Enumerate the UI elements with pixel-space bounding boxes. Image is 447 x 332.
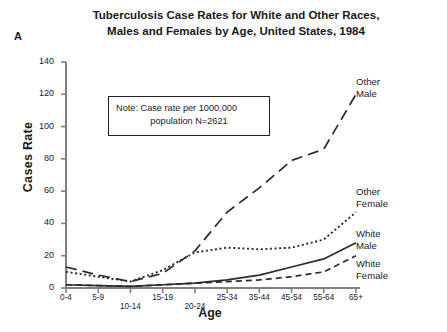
x-tick-label: 15-19 [143, 293, 183, 302]
y-tick-label: 20 [28, 250, 54, 260]
y-tick-label: 0 [28, 282, 54, 292]
x-tick-label: 20-24 [175, 302, 215, 311]
y-tick-label: 60 [28, 185, 54, 195]
y-tick-label: 100 [28, 121, 54, 131]
y-tick-label: 120 [28, 88, 54, 98]
y-tick-label: 80 [28, 153, 54, 163]
series-line-white-female [66, 256, 356, 287]
x-tick-label: 5-9 [78, 293, 118, 302]
series-line-other-female [66, 212, 356, 281]
x-tick-label: 65+ [336, 293, 376, 302]
plot-canvas [0, 0, 447, 332]
series-line-other-male [66, 94, 356, 281]
chart-figure: A Tuberculosis Case Rates for White and … [0, 0, 447, 332]
x-tick-label: 10-14 [110, 302, 150, 311]
y-tick-label: 40 [28, 217, 54, 227]
y-tick-label: 140 [28, 56, 54, 66]
